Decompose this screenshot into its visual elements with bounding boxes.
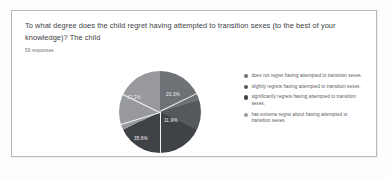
legend-item: does not regret having attempted to tran… (244, 73, 370, 80)
slice-value-label: 11.9% (164, 118, 177, 123)
legend-item: has extreme regret about having attempte… (244, 112, 370, 125)
legend-swatch-icon (244, 74, 248, 78)
slice-separator (121, 112, 160, 125)
legend-swatch-icon (244, 113, 248, 117)
survey-result-card: To what degree does the child regret hav… (11, 10, 377, 157)
slice-value-label: 32.2% (127, 95, 141, 100)
legend-item-label: significantly regrets having attempted t… (251, 94, 363, 107)
chart-legend: does not regret having attempted to tran… (244, 73, 370, 129)
slice-value-label: 20.3% (166, 92, 180, 97)
legend-swatch-icon (244, 95, 248, 99)
pie-chart: 20.3% 11.9% 35.6% 32.2% does not regret … (12, 59, 376, 157)
legend-item: significantly regrets having attempted t… (244, 94, 370, 107)
pie-slices (119, 71, 201, 153)
page-title: To what degree does the child regret hav… (25, 20, 345, 43)
pie-graphic: 20.3% 11.9% 35.6% 32.2% (119, 71, 201, 153)
legend-item: slightly regrets having attempted to tra… (244, 84, 370, 91)
slice-value-label: 35.6% (134, 136, 148, 141)
question-block: To what degree does the child regret hav… (12, 11, 376, 54)
legend-item-label: does not regret having attempted to tran… (251, 73, 362, 80)
slice-separator (160, 112, 161, 153)
legend-swatch-icon (244, 85, 248, 89)
legend-item-label: slightly regrets having attempted to tra… (251, 84, 360, 91)
legend-item-label: has extreme regret about having attempte… (251, 112, 363, 125)
responses-count: 59 responses (25, 47, 363, 54)
screenshot-root: To what degree does the child regret hav… (0, 0, 390, 179)
